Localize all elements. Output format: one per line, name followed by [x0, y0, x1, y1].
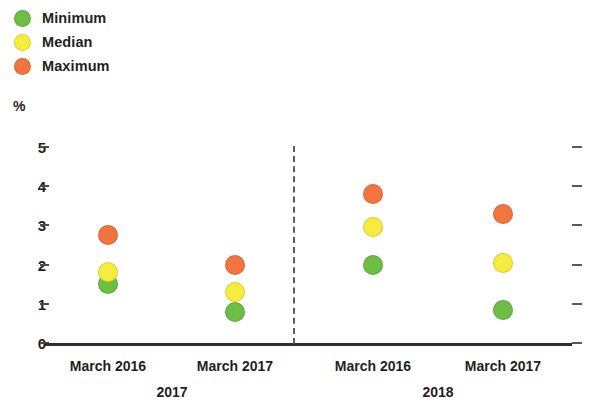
data-point-maximum [98, 225, 118, 245]
data-point-median [363, 217, 383, 237]
y-axis-unit-label: % [13, 98, 25, 114]
y-axis-tick-mark-right [572, 146, 582, 148]
data-point-minimum [493, 300, 513, 320]
y-axis-tick-mark [40, 303, 49, 305]
data-point-minimum [225, 302, 245, 322]
x-axis-tick-label: March 2017 [197, 358, 273, 374]
data-point-maximum [363, 184, 383, 204]
y-axis-tick-mark [40, 224, 49, 226]
legend-swatch-median-icon [14, 34, 31, 51]
group-divider [293, 146, 295, 344]
y-axis-tick-mark-right [572, 342, 582, 344]
x-axis-group-label: 2017 [156, 384, 187, 400]
chart-container: Minimum Median Maximum % 543210 March 20… [0, 0, 590, 406]
x-axis-group-label: 2018 [422, 384, 453, 400]
y-axis-tick-mark [40, 264, 49, 266]
data-point-median [98, 262, 118, 282]
y-axis-tick-mark-right [572, 303, 582, 305]
legend-label-median: Median [42, 34, 93, 50]
chart-legend: Minimum Median Maximum [14, 6, 234, 78]
y-axis-tick-mark-right [572, 185, 582, 187]
x-axis-tick-label: March 2017 [465, 358, 541, 374]
x-axis-tick-label: March 2016 [70, 358, 146, 374]
data-point-maximum [493, 204, 513, 224]
y-axis-tick-mark-right [572, 264, 582, 266]
legend-label-minimum: Minimum [42, 10, 106, 26]
x-axis-line [45, 343, 572, 346]
legend-swatch-maximum-icon [14, 58, 31, 75]
y-axis-tick-mark-right [572, 224, 582, 226]
legend-item-median: Median [14, 30, 234, 54]
legend-swatch-minimum-icon [14, 10, 31, 27]
legend-item-minimum: Minimum [14, 6, 234, 30]
legend-label-maximum: Maximum [42, 58, 110, 74]
data-point-minimum [363, 255, 383, 275]
x-axis-tick-label: March 2016 [335, 358, 411, 374]
data-point-maximum [225, 255, 245, 275]
data-point-median [225, 282, 245, 302]
y-axis-tick-mark [40, 146, 49, 148]
y-axis-tick-mark [40, 185, 49, 187]
data-point-median [493, 253, 513, 273]
legend-item-maximum: Maximum [14, 54, 234, 78]
